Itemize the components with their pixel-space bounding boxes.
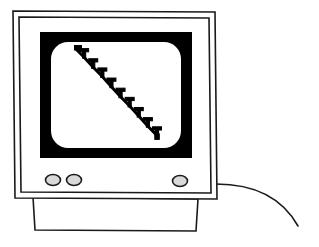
error-bar-stem [137,109,140,117]
error-bar-stem [101,70,104,78]
error-bar-stem [83,50,86,58]
error-bar-stem [146,119,149,127]
chart-line-start-cap [75,46,82,51]
power-button[interactable]: Power [46,175,61,186]
screen-glass [51,42,181,148]
contrast-button[interactable]: Contrast [173,176,188,187]
screen-display[interactable] [51,42,181,148]
error-bar-stem [110,80,113,88]
power-cable [216,184,298,226]
error-bar-stem [92,60,95,68]
monitor-stand-body [33,197,198,231]
brightness-button[interactable]: Brightness [67,175,82,186]
power-cable-line [216,184,298,226]
monitor-stand [33,197,198,231]
error-bar-stem [119,90,122,98]
crt-monitor-illustration: PowerBrightnessContrast [0,0,319,247]
illustration-canvas: CRT computer monitor displaying a declin… [0,0,319,247]
chart-line-end-cap [155,134,160,140]
error-bar-stem [128,99,131,107]
